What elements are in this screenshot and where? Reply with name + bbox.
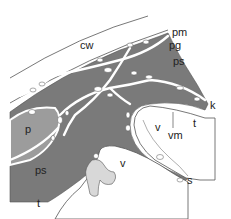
label-t-bottom: t (37, 198, 40, 209)
label-v-center: v (120, 158, 126, 169)
label-s: s (187, 175, 193, 186)
label-pm: pm (172, 27, 187, 38)
label-pg: pg (169, 40, 181, 51)
label-vm: vm (168, 130, 183, 141)
label-ps-bottom: ps (35, 165, 47, 176)
label-v-right: v (155, 122, 161, 133)
label-ps-top: ps (173, 56, 185, 67)
label-k: k (210, 100, 216, 111)
label-p: p (25, 124, 31, 135)
label-t-right: t (193, 118, 196, 129)
diagram-canvas: cw pm pg ps k p v t vm v ps s t (0, 0, 231, 219)
tissue-diagram (0, 0, 231, 219)
label-cw: cw (80, 40, 93, 51)
